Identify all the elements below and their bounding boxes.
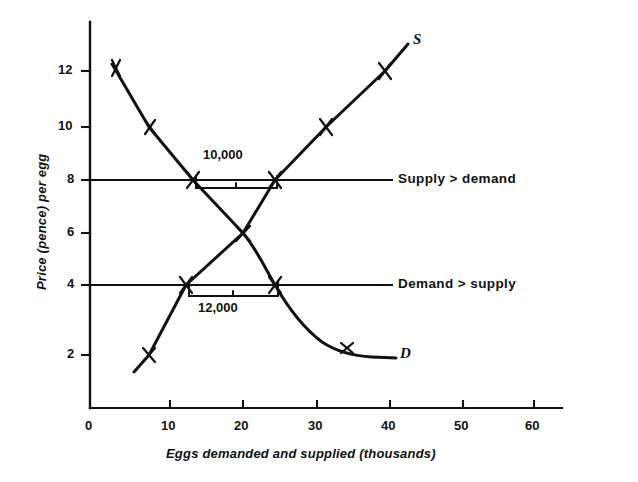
x-tick-label-60: 60 <box>525 418 539 433</box>
y-tick-label-6: 6 <box>67 224 74 239</box>
supply-demand-chart: 12 10 8 6 4 2 0 10 20 30 40 50 60 10,000… <box>0 0 638 482</box>
axis-lines <box>90 22 562 408</box>
y-tick-label-12: 12 <box>58 62 72 77</box>
shortage-region-label: Demand > supply <box>398 276 516 291</box>
x-tick-label-30: 30 <box>308 418 322 433</box>
shortage-gap-label: 12,000 <box>198 300 238 315</box>
marker-supply-1 <box>143 348 155 362</box>
equilibrium-marker <box>236 226 250 241</box>
marker-supply-5 <box>379 63 391 79</box>
x-tick-label-20: 20 <box>234 418 248 433</box>
surplus-region-label: Supply > demand <box>398 171 516 186</box>
demand-curve-line <box>112 64 396 358</box>
y-tick-label-10: 10 <box>58 118 72 133</box>
x-tick-label-50: 50 <box>454 418 468 433</box>
surplus-gap-bracket <box>196 176 277 188</box>
x-tick-label-40: 40 <box>381 418 395 433</box>
x-axis-title: Eggs demanded and supplied (thousands) <box>166 446 436 461</box>
chart-canvas <box>0 0 638 482</box>
y-axis-title: Price (pence) per egg <box>34 154 49 290</box>
supply-curve-line <box>134 44 408 372</box>
marker-demand-5 <box>341 343 353 353</box>
demand-curve-label: D <box>400 345 411 362</box>
region-leader-lines <box>372 180 393 285</box>
supply-curve-label: S <box>413 31 421 48</box>
y-tick-label-2: 2 <box>67 346 74 361</box>
marker-supply-4 <box>320 119 332 135</box>
y-tick-label-8: 8 <box>67 171 74 186</box>
x-tick-label-10: 10 <box>161 418 175 433</box>
marker-demand-2 <box>145 120 155 134</box>
supply-data-markers <box>143 63 391 362</box>
surplus-gap-label: 10,000 <box>203 147 243 162</box>
y-axis-ticks <box>81 71 90 355</box>
x-tick-label-0: 0 <box>85 418 92 433</box>
shortage-gap-bracket <box>189 281 278 296</box>
y-tick-label-4: 4 <box>67 276 74 291</box>
